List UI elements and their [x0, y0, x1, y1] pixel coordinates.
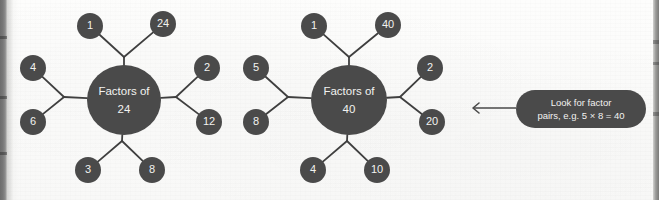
factor-node-6[interactable]: 6: [20, 109, 46, 135]
factor-node-12[interactable]: 12: [196, 109, 222, 135]
factor-node-10[interactable]: 10: [364, 157, 390, 183]
branch-arm: [400, 97, 422, 114]
factor-node-label: 8: [253, 115, 259, 127]
hub-label-line-1: Factors of: [323, 85, 375, 97]
branch-arm: [266, 77, 288, 97]
branch-arm: [176, 77, 198, 97]
page-canvas: 1244621238Factors of2414058220410Factors…: [0, 0, 659, 200]
branch-arm: [100, 35, 124, 57]
branch-arm: [43, 97, 64, 114]
factor-node-label: 8: [149, 163, 155, 175]
factor-node-label: 4: [30, 61, 36, 73]
callout-line-2: pairs, e.g. 5 × 8 = 40: [537, 110, 624, 121]
nodes-layer: 1244621238Factors of2414058220410Factors…: [20, 11, 445, 183]
branch-stem: [161, 97, 176, 98]
hub-factors-of-40[interactable]: Factors of40: [311, 65, 387, 135]
factor-node-label: 2: [427, 61, 433, 73]
branch-arm: [122, 141, 143, 161]
factor-node-1[interactable]: 1: [77, 13, 103, 39]
branch-arm: [400, 77, 421, 97]
factor-node-2[interactable]: 2: [194, 55, 220, 81]
branch-stem: [64, 97, 87, 98]
factor-node-label: 6: [30, 115, 36, 127]
branch-arm: [124, 32, 153, 57]
factor-node-4[interactable]: 4: [300, 157, 326, 183]
branch-arm: [347, 141, 368, 161]
factor-node-2[interactable]: 2: [417, 55, 443, 81]
hub-ellipse: [311, 65, 387, 135]
factor-node-20[interactable]: 20: [419, 109, 445, 135]
factor-spider-diagrams: 1244621238Factors of2414058220410Factors…: [0, 0, 659, 200]
callout-arrow: [473, 103, 516, 113]
branch-arm: [349, 33, 378, 57]
hub-factors-of-24[interactable]: Factors of24: [87, 65, 161, 135]
factor-node-label: 40: [382, 18, 394, 30]
hub-label-line-2: 24: [118, 103, 131, 115]
factor-node-8[interactable]: 8: [139, 157, 165, 183]
branch-arm: [42, 77, 64, 97]
factor-node-24[interactable]: 24: [150, 11, 176, 37]
factor-node-label: 12: [203, 115, 215, 127]
factor-node-label: 1: [311, 19, 317, 31]
branch-arm: [323, 141, 347, 162]
factor-node-label: 24: [157, 17, 169, 29]
factor-node-label: 3: [85, 163, 91, 175]
factor-node-1[interactable]: 1: [301, 13, 327, 39]
callout-box: Look for factor pairs, e.g. 5 × 8 = 40: [516, 90, 646, 128]
hub-label-line-1: Factors of: [98, 85, 150, 97]
factor-node-5[interactable]: 5: [243, 55, 269, 81]
hub-ellipse: [87, 65, 161, 135]
branch-arm: [176, 97, 199, 114]
branch-stem: [387, 97, 400, 98]
branch-arm: [98, 141, 122, 162]
factor-node-label: 4: [310, 163, 316, 175]
branch-arm: [324, 35, 349, 57]
factor-node-label: 5: [253, 61, 259, 73]
branch-stem: [288, 97, 311, 98]
branch-arm: [266, 97, 288, 114]
factor-node-label: 10: [371, 163, 383, 175]
factor-node-4[interactable]: 4: [20, 55, 46, 81]
factor-node-label: 1: [87, 19, 93, 31]
factor-node-8[interactable]: 8: [243, 109, 269, 135]
callout-line-1: Look for factor: [551, 97, 612, 108]
factor-node-3[interactable]: 3: [75, 157, 101, 183]
factor-node-40[interactable]: 40: [375, 12, 401, 38]
factor-node-label: 2: [204, 61, 210, 73]
factor-node-label: 20: [426, 115, 438, 127]
hub-label-line-2: 40: [343, 103, 356, 115]
